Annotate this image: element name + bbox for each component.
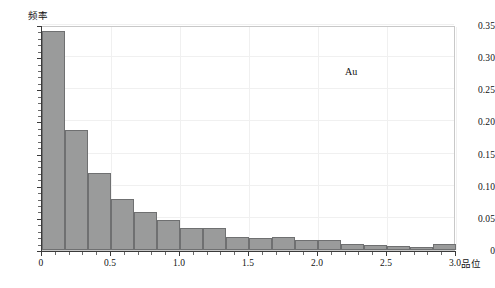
- x-tick-mark-minor: [220, 252, 221, 255]
- histogram-bar: [295, 240, 318, 250]
- x-tick-mark-minor: [55, 252, 56, 255]
- histogram-bar: [42, 31, 65, 250]
- x-tick-mark: [248, 252, 249, 256]
- histogram-bar: [65, 130, 88, 250]
- x-tick-mark-minor: [82, 252, 83, 255]
- y-tick-mark-minor: [38, 245, 41, 246]
- y-tick-mark-minor: [38, 206, 41, 207]
- y-tick-mark-minor: [38, 161, 41, 162]
- x-tick-mark-minor: [151, 252, 152, 255]
- y-tick-mark-minor: [38, 97, 41, 98]
- plot-area: [41, 26, 455, 251]
- y-tick-label: 0.25: [461, 85, 495, 95]
- histogram-bar: [341, 244, 364, 250]
- x-tick-mark: [386, 252, 387, 256]
- x-tick-mark-minor: [414, 252, 415, 255]
- y-tick-mark: [37, 187, 41, 188]
- x-tick-label: 2.5: [366, 258, 406, 269]
- x-tick-mark-minor: [427, 252, 428, 255]
- histogram-bar: [410, 247, 433, 250]
- x-tick-label: 2.0: [297, 258, 337, 269]
- histogram-bar: [433, 244, 456, 250]
- histogram-bar: [157, 220, 180, 250]
- y-tick-mark: [37, 26, 41, 27]
- x-tick-mark-minor: [400, 252, 401, 255]
- y-tick-mark: [37, 219, 41, 220]
- x-tick-mark: [110, 252, 111, 256]
- histogram-bar: [318, 240, 341, 250]
- y-axis-title: 频率: [28, 10, 48, 21]
- gridline-vertical: [456, 27, 457, 250]
- y-axis-line: [41, 26, 42, 252]
- x-tick-mark-minor: [124, 252, 125, 255]
- y-tick-mark-minor: [38, 45, 41, 46]
- x-axis-title: 品位: [461, 258, 481, 269]
- x-tick-mark-minor: [345, 252, 346, 255]
- bar-series: [42, 27, 454, 250]
- y-tick-mark-minor: [38, 77, 41, 78]
- series-annotation-au: Au: [345, 66, 357, 77]
- y-tick-mark-minor: [38, 129, 41, 130]
- y-tick-mark-minor: [38, 116, 41, 117]
- histogram-bar: [134, 212, 157, 250]
- y-tick-mark-minor: [38, 148, 41, 149]
- y-tick-label: 0.15: [461, 150, 495, 160]
- x-tick-label: 0: [21, 258, 61, 269]
- y-tick-label: 0.05: [461, 214, 495, 224]
- x-tick-mark-minor: [207, 252, 208, 255]
- x-tick-mark-minor: [303, 252, 304, 255]
- x-tick-mark-minor: [165, 252, 166, 255]
- y-tick-mark-minor: [38, 193, 41, 194]
- x-tick-mark: [41, 252, 42, 256]
- y-tick-label: 0.10: [461, 182, 495, 192]
- y-tick-mark-minor: [38, 65, 41, 66]
- x-tick-mark: [317, 252, 318, 256]
- x-tick-mark-minor: [289, 252, 290, 255]
- histogram-bar: [203, 228, 226, 250]
- y-tick-mark: [37, 155, 41, 156]
- histogram-bar: [272, 237, 295, 251]
- y-tick-mark-minor: [38, 32, 41, 33]
- y-tick-label: 0: [461, 246, 495, 256]
- x-tick-label: 0.5: [90, 258, 130, 269]
- histogram-bar: [364, 245, 387, 250]
- histogram-figure: 频率 00.050.100.150.200.250.300.35 00.51.0…: [0, 0, 495, 288]
- y-tick-mark: [37, 90, 41, 91]
- y-tick-mark-minor: [38, 84, 41, 85]
- y-tick-mark-minor: [38, 238, 41, 239]
- y-tick-mark: [37, 122, 41, 123]
- histogram-bar: [249, 238, 272, 250]
- y-tick-mark-minor: [38, 71, 41, 72]
- gridline-horizontal: [42, 24, 454, 25]
- y-tick-mark-minor: [38, 232, 41, 233]
- y-tick-mark-minor: [38, 180, 41, 181]
- x-tick-label: 1.0: [159, 258, 199, 269]
- x-tick-mark-minor: [358, 252, 359, 255]
- y-tick-mark: [37, 58, 41, 59]
- x-tick-mark: [455, 252, 456, 256]
- y-tick-mark-minor: [38, 174, 41, 175]
- x-tick-mark-minor: [234, 252, 235, 255]
- y-tick-mark-minor: [38, 212, 41, 213]
- x-tick-mark-minor: [276, 252, 277, 255]
- x-tick-mark-minor: [96, 252, 97, 255]
- x-tick-label: 1.5: [228, 258, 268, 269]
- x-tick-mark: [179, 252, 180, 256]
- y-tick-mark-minor: [38, 135, 41, 136]
- y-tick-mark-minor: [38, 52, 41, 53]
- y-tick-mark-minor: [38, 167, 41, 168]
- x-tick-mark-minor: [441, 252, 442, 255]
- y-tick-mark-minor: [38, 103, 41, 104]
- y-tick-mark-minor: [38, 225, 41, 226]
- histogram-bar: [180, 228, 203, 250]
- histogram-bar: [111, 199, 134, 250]
- histogram-bar: [226, 237, 249, 251]
- y-tick-label: 0.20: [461, 117, 495, 127]
- x-tick-mark-minor: [69, 252, 70, 255]
- histogram-bar: [88, 173, 111, 250]
- y-tick-label: 0.30: [461, 53, 495, 63]
- y-tick-mark-minor: [38, 39, 41, 40]
- x-tick-mark-minor: [138, 252, 139, 255]
- y-tick-label: 0.35: [461, 21, 495, 31]
- y-tick-mark-minor: [38, 142, 41, 143]
